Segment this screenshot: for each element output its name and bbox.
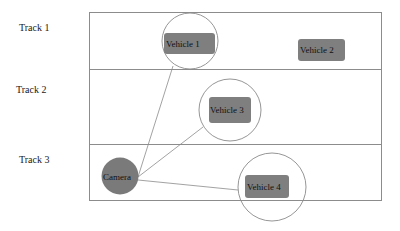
- camera-label: Camera: [103, 172, 131, 182]
- link-camera-vehicle-1: [138, 66, 173, 177]
- vehicle-1[interactable]: Vehicle 1: [164, 33, 215, 54]
- link-camera-vehicle-4: [138, 180, 238, 190]
- vehicle-3[interactable]: Vehicle 3: [209, 97, 251, 123]
- link-camera-vehicle-3: [138, 127, 203, 177]
- camera-links: [138, 66, 238, 190]
- vehicle-1-label: Vehicle 1: [166, 39, 200, 49]
- tracking-diagram: Vehicle 1 Vehicle 2 Vehicle 3 Vehicle 4 …: [0, 0, 400, 231]
- vehicle-3-label: Vehicle 3: [210, 105, 244, 115]
- vehicle-4-label: Vehicle 4: [247, 182, 281, 192]
- vehicle-4[interactable]: Vehicle 4: [245, 175, 289, 198]
- vehicle-2[interactable]: Vehicle 2: [298, 39, 345, 61]
- camera[interactable]: Camera: [102, 158, 139, 195]
- vehicle-2-label: Vehicle 2: [300, 45, 334, 55]
